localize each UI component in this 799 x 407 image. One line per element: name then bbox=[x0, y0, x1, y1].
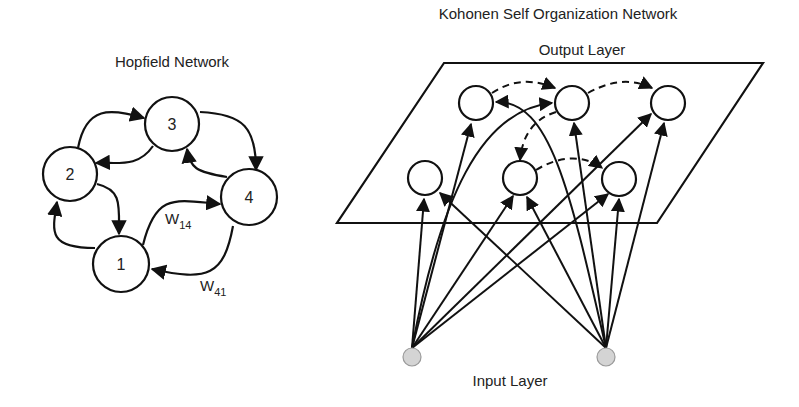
hopfield-node-1: 1 bbox=[93, 236, 149, 292]
connection bbox=[412, 196, 513, 348]
lateral-connection bbox=[588, 82, 652, 93]
output-node bbox=[459, 86, 493, 120]
edge-3-to-2 bbox=[96, 146, 153, 163]
output-node bbox=[651, 86, 685, 120]
input-layer-label: Input Layer bbox=[472, 372, 547, 389]
hopfield-title: Hopfield Network bbox=[115, 53, 230, 70]
hopfield-node-2: 2 bbox=[43, 147, 97, 201]
edge-4-to-1 bbox=[152, 226, 233, 275]
node-label: 2 bbox=[66, 166, 75, 183]
output-node bbox=[602, 162, 636, 196]
connection bbox=[606, 123, 664, 348]
connection bbox=[412, 194, 608, 348]
node-label: 3 bbox=[168, 116, 177, 133]
output-layer-label: Output Layer bbox=[539, 41, 626, 58]
hopfield-node-4: 4 bbox=[221, 169, 277, 225]
diagram-canvas: Hopfield Network 1 2 3 4 bbox=[0, 0, 799, 407]
lateral-connection bbox=[492, 82, 555, 93]
input-connections bbox=[412, 102, 664, 348]
node-label: 4 bbox=[245, 189, 254, 206]
connection bbox=[412, 103, 552, 348]
output-node bbox=[408, 161, 442, 195]
connection bbox=[527, 197, 606, 348]
edge-2-to-3 bbox=[78, 112, 144, 148]
output-node bbox=[503, 161, 537, 195]
weight-label-w14: W14 bbox=[165, 210, 191, 231]
input-node-left bbox=[403, 348, 421, 366]
edge-1-to-2 bbox=[54, 202, 95, 248]
output-node bbox=[555, 86, 589, 120]
lateral-connection bbox=[520, 112, 556, 160]
hopfield-network: Hopfield Network 1 2 3 4 bbox=[43, 53, 277, 298]
kohonen-network: Kohonen Self Organization Network Output… bbox=[337, 5, 763, 389]
node-label: 1 bbox=[117, 256, 126, 273]
kohonen-title: Kohonen Self Organization Network bbox=[439, 5, 678, 22]
edge-2-to-1 bbox=[97, 184, 119, 234]
input-node-right bbox=[597, 348, 615, 366]
lateral-connection bbox=[536, 158, 602, 170]
weight-label-w41: W41 bbox=[200, 277, 226, 298]
edge-4-to-3 bbox=[187, 149, 227, 177]
edge-3-to-4 bbox=[200, 112, 256, 170]
hopfield-node-3: 3 bbox=[145, 97, 199, 151]
